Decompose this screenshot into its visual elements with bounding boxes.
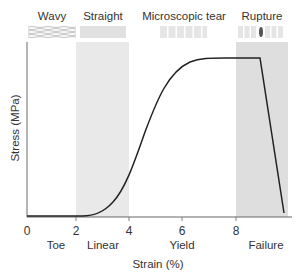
region-label-failure: Failure (248, 239, 283, 251)
stress-strain-chart: Wavy Straight Microscopic tear Rupture 0… (0, 0, 302, 277)
rupture-gap (259, 27, 263, 37)
x-tick-label-2: 2 (73, 224, 80, 238)
region-label-linear: Linear (87, 239, 119, 251)
label-wavy: Wavy (38, 10, 67, 22)
region-label-toe: Toe (47, 239, 66, 251)
x-axis-title: Strain (%) (132, 258, 183, 270)
label-straight: Straight (83, 10, 123, 22)
straight-fibers-illustration (80, 27, 126, 37)
region-label-yield: Yield (169, 239, 194, 251)
microscopic-tear-fibers-illustration (160, 27, 207, 37)
y-axis-title: Stress (MPa) (9, 94, 21, 161)
x-tick-label-0: 0 (24, 224, 31, 238)
x-tick-label-8: 8 (233, 224, 240, 238)
wavy-fibers-illustration (28, 27, 76, 38)
x-ticks (76, 217, 236, 221)
x-tick-label-4: 4 (126, 224, 133, 238)
label-microscopic-tear: Microscopic tear (142, 10, 226, 22)
rupture-fibers-illustration (238, 27, 284, 37)
x-tick-label-6: 6 (179, 224, 186, 238)
label-rupture: Rupture (242, 10, 283, 22)
